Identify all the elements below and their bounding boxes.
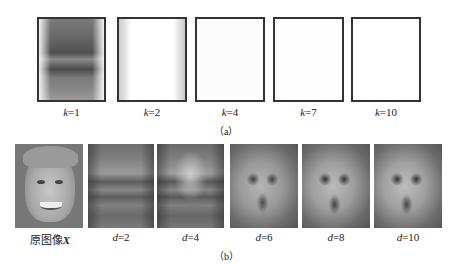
label-k7: k=7	[273, 106, 344, 118]
label-d8: d=8	[302, 231, 370, 243]
reconstruction-d6	[230, 144, 298, 228]
reconstruction-d4	[157, 144, 224, 228]
caption-b: （b）	[214, 248, 239, 263]
basis-image-k4	[195, 17, 265, 102]
reconstruction-d2	[88, 144, 154, 228]
label-d10: d=10	[374, 231, 442, 243]
label-k4: k=4	[195, 106, 265, 118]
label-k10: k=10	[351, 106, 421, 118]
label-d4: d=4	[157, 231, 224, 243]
reconstruction-d8	[302, 144, 370, 228]
basis-image-k2	[117, 17, 187, 102]
basis-image-k1	[37, 17, 106, 102]
label-d6: d=6	[230, 231, 298, 243]
label-d2: d=2	[88, 231, 154, 243]
caption-a: （a）	[214, 123, 238, 138]
basis-image-k10	[351, 17, 421, 102]
reconstruction-d10	[374, 144, 442, 228]
original-face-image	[15, 144, 83, 228]
label-k1: k=1	[37, 106, 106, 118]
label-original: 原图像X	[10, 231, 90, 247]
label-k2: k=2	[117, 106, 187, 118]
basis-image-k7	[273, 17, 344, 102]
